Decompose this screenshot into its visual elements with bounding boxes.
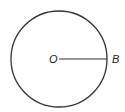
- center-label-o: O: [49, 53, 58, 65]
- point-label-b: B: [112, 53, 119, 65]
- circle-diagram: O B: [0, 0, 125, 112]
